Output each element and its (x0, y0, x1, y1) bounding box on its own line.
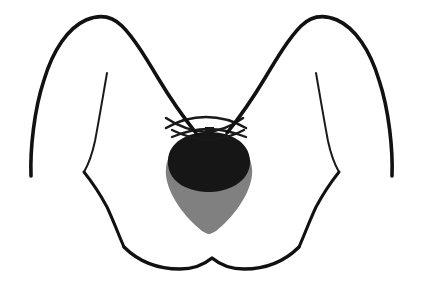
anatomical-figure-root (0, 0, 423, 293)
anatomy-illustration (0, 0, 423, 293)
